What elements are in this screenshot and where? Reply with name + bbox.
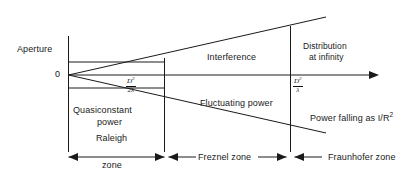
raleigh-zone-label-line1: Raleigh — [96, 133, 127, 143]
quasiconstant-power-label-line1: Quasiconstant — [73, 105, 132, 115]
power-falling-label: Power falling as I/R2 — [310, 113, 393, 123]
distribution-at-infinity-label-line1: Distribution — [303, 42, 347, 52]
raleigh-zone-label-line2: zone — [102, 160, 122, 170]
raleigh-freznel-fraction-denominator: 2λ — [126, 87, 136, 95]
fluctuating-power-label: Fluctuating power — [200, 98, 273, 108]
fraunhofer-zone-left-arrowhead — [295, 153, 305, 161]
fraunhofer-zone-label: Fraunhofer zone — [328, 152, 396, 162]
origin-zero-label: 0 — [55, 69, 60, 79]
interference-label: Interference — [207, 52, 256, 62]
quasiconstant-power-label-line2: power — [97, 117, 122, 127]
freznel-zone-left-arrowhead — [169, 153, 179, 161]
distribution-at-infinity-label-line2: at infinity — [309, 53, 344, 63]
freznel-fraunhofer-boundary-fraction: D2 λ — [293, 78, 303, 94]
upper-beam-edge-line — [69, 17, 327, 75]
optical-axis-arrowhead — [369, 71, 379, 79]
raleigh-zone-right-arrowhead — [155, 153, 165, 161]
power-falling-text: Power falling as I/R — [310, 113, 390, 123]
aperture-label: Aperture — [17, 44, 52, 54]
freznel-fraunhofer-fraction-denominator: λ — [293, 87, 303, 95]
raleigh-freznel-boundary-fraction: D2 2λ — [126, 78, 136, 94]
freznel-zone-right-arrowhead — [277, 153, 287, 161]
raleigh-zone-left-arrowhead — [69, 153, 79, 161]
diffraction-zones-diagram: Aperture 0 Interference Distribution at … — [0, 0, 410, 181]
freznel-zone-label: Freznel zone — [198, 152, 251, 162]
power-falling-exponent: 2 — [390, 111, 394, 118]
